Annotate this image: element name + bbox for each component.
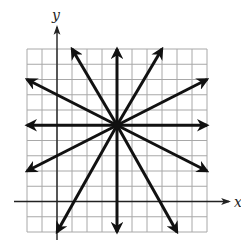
center-point <box>113 121 121 129</box>
x-axis-label: x <box>234 194 241 210</box>
y-axis-label: y <box>51 7 61 23</box>
coordinate-diagram: x y <box>0 0 241 244</box>
